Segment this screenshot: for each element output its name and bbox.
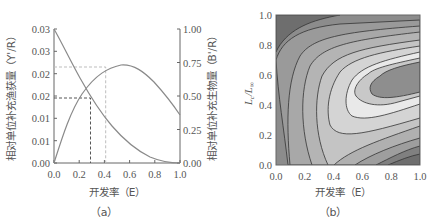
y-tick-label: 0.8 — [259, 40, 272, 51]
dark-dashed-guide — [54, 98, 91, 163]
x-tick-label: 0.8 — [385, 171, 398, 182]
light-dashed-guide — [54, 67, 106, 163]
left-y-tick-label: 0.02 — [32, 69, 50, 80]
left-y-tick-label: 0.03 — [32, 46, 50, 57]
panel-caption-a: （a） — [90, 206, 119, 219]
x-tick-label: 0.2 — [298, 171, 311, 182]
x-tick-label: 0.8 — [148, 169, 161, 180]
left-y-tick-label: 0.02 — [32, 91, 50, 102]
left-y-axis-label: 相对单位补充渔获量（Y'/R） — [5, 31, 17, 161]
x-axis-label: 开发率（E） — [89, 186, 146, 198]
x-axis-label: 开发率（E） — [315, 186, 372, 198]
x-tick-label: 0.4 — [327, 171, 341, 182]
y-tick-label: 0.4 — [259, 100, 273, 111]
right-y-tick-label: 0.25 — [183, 125, 201, 136]
x-tick-label: 0.0 — [47, 169, 60, 180]
x-tick-label: 0.0 — [269, 171, 282, 182]
panel-caption-b: （b） — [319, 206, 348, 219]
x-tick-label: 0.2 — [73, 169, 86, 180]
y-tick-label: 0.0 — [259, 160, 272, 171]
br-curve — [54, 29, 180, 163]
left-y-tick-label: 0.00 — [32, 158, 50, 169]
right-y-tick-label: 0.00 — [183, 158, 201, 169]
x-tick-label: 0.6 — [356, 171, 369, 182]
y-tick-label: 1.0 — [259, 10, 272, 21]
right-y-tick-label: 0.75 — [183, 58, 201, 69]
yr-curve — [54, 65, 180, 163]
y-tick-label: 0.6 — [259, 70, 272, 81]
right-y-axis-label: 相对单位补充生物量（B'/R） — [206, 31, 218, 162]
right-y-tick-label: 1.00 — [183, 24, 201, 35]
contour-plot — [276, 15, 420, 165]
figure: 0.00 0.01 0.01 0.02 0.02 0.03 0.03 0.00 … — [0, 0, 434, 224]
y-tick-label: 0.2 — [259, 130, 272, 141]
panel-b: 0.0 0.2 0.4 0.6 0.8 1.0 0.0 0.2 0.4 0.6 … — [243, 10, 427, 219]
left-y-tick-label: 0.03 — [32, 24, 50, 35]
left-y-tick-label: 0.01 — [32, 136, 50, 147]
right-y-tick-label: 0.50 — [183, 91, 201, 102]
x-tick-label: 0.6 — [123, 169, 136, 180]
x-tick-label: 1.0 — [173, 169, 186, 180]
left-y-tick-label: 0.01 — [32, 113, 50, 124]
x-tick-label: 0.4 — [98, 169, 112, 180]
y-axis-label: Lc/L∞ — [243, 82, 256, 106]
reference-lines — [54, 67, 106, 163]
x-tick-label: 1.0 — [413, 171, 426, 182]
panel-a: 0.00 0.01 0.01 0.02 0.02 0.03 0.03 0.00 … — [5, 24, 218, 219]
